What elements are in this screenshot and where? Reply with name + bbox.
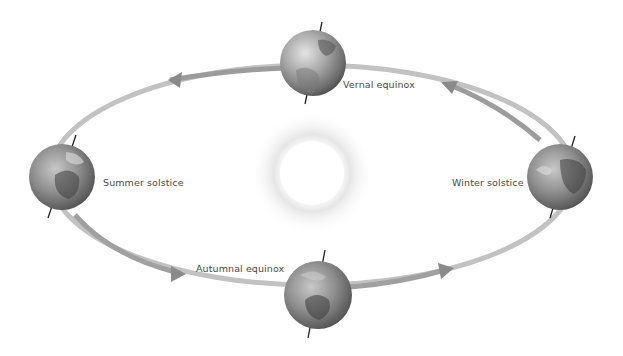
arrow-bottom-right-icon — [438, 263, 454, 279]
orbit-segment-bottom-right — [350, 270, 445, 287]
sun — [280, 141, 344, 205]
label-summer-solstice: Summer solstice — [103, 177, 184, 188]
label-winter-solstice: Winter solstice — [452, 177, 524, 188]
earth-autumnal-equinox — [284, 250, 352, 338]
earth-vernal-equinox — [280, 22, 346, 104]
orbit-diagram — [0, 0, 623, 356]
label-vernal-equinox: Vernal equinox — [343, 79, 415, 90]
label-autumnal-equinox: Autumnal equinox — [196, 263, 284, 274]
earth-summer-solstice — [29, 135, 95, 218]
orbit-segment-top-left — [170, 68, 285, 80]
earth-winter-solstice — [527, 136, 593, 218]
arrow-top-left-icon — [168, 72, 182, 88]
